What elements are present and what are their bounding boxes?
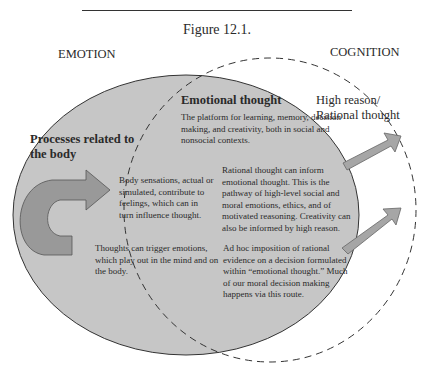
emotional-thought-heading: Emotional thought [181,93,281,108]
rational-inform-annotation: Rational thought can inform emotional th… [222,165,357,234]
body-processes-heading: Processes related to the body [30,132,150,162]
cognition-label: COGNITION [330,45,399,60]
body-sensations-annotation: Body sensations, actual or simulated, co… [119,175,214,221]
high-reason-heading: High reason/ Rational thought [316,93,411,123]
emotion-label: EMOTION [58,47,116,62]
thoughts-trigger-annotation: Thoughts can trigger emotions, which pla… [95,243,220,278]
ad-hoc-annotation: Ad hoc imposition of rational evidence o… [223,243,348,301]
